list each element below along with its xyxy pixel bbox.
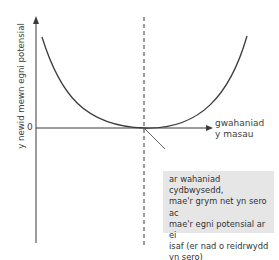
equilibrium-annotation: ar wahaniad cydbwysedd, mae'r grym net y… bbox=[163, 171, 274, 233]
x-axis-arrow-icon bbox=[206, 125, 213, 131]
annotation-leader-line-2 bbox=[165, 149, 168, 172]
y-axis-arrow-icon bbox=[33, 16, 39, 24]
origin-label: 0 bbox=[27, 122, 33, 132]
annotation-leader-line bbox=[145, 129, 165, 149]
y-axis-label: y newid mewn egni potensial bbox=[16, 23, 26, 149]
x-axis-label: gwahaniad y masau bbox=[215, 118, 264, 140]
